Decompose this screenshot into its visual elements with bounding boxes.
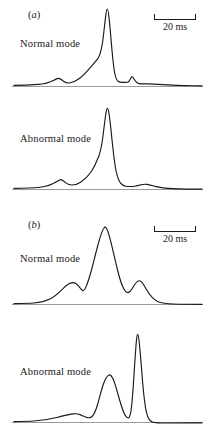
trace-b-normal-mode	[0, 212, 215, 310]
trace-b-abnormal-mode	[0, 325, 215, 430]
trace-a-normal-mode	[0, 0, 215, 92]
panel-a: (a) 20 ms Normal mode Abnormal mode	[0, 0, 215, 195]
waveform-b-normal	[14, 227, 202, 304]
panel-b: (b) 20 ms Normal mode Abnormal mode	[0, 212, 215, 432]
waveform-a-abnormal	[14, 108, 202, 189]
waveform-a-normal	[14, 9, 202, 86]
trace-a-abnormal-mode	[0, 100, 215, 195]
figure-container: (a) 20 ms Normal mode Abnormal mode (b)	[0, 0, 215, 432]
waveform-b-abnormal	[14, 334, 202, 423]
